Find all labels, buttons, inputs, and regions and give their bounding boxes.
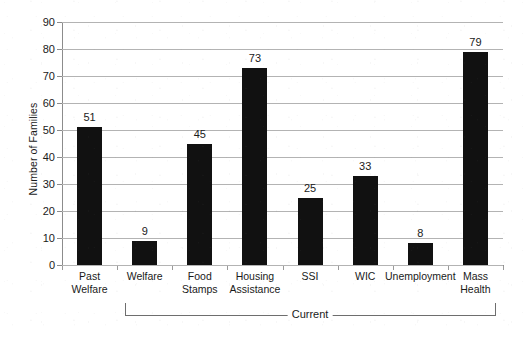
- gridline: [62, 103, 503, 104]
- x-axis-category-label: HousingAssistance: [230, 270, 281, 296]
- gridline: [62, 157, 503, 158]
- y-axis-tick-mark: [57, 76, 62, 77]
- y-axis-tick-label: 10: [43, 232, 55, 244]
- y-axis-tick-label: 0: [49, 259, 55, 271]
- bar: [187, 144, 212, 266]
- bar: [77, 127, 102, 265]
- x-axis-category-line: SSI: [302, 270, 319, 282]
- y-axis-tick-label: 20: [43, 205, 55, 217]
- x-axis-category-label: Welfare: [127, 270, 163, 283]
- gridline: [62, 184, 503, 185]
- x-axis-tick-mark: [338, 266, 339, 270]
- x-axis-category-label: SSI: [302, 270, 319, 283]
- bar: [463, 52, 488, 265]
- x-axis-category-label: WIC: [355, 270, 375, 283]
- x-axis-category-line: Food: [188, 270, 212, 282]
- x-axis-category-line: Welfare: [127, 270, 163, 282]
- y-axis-title: Number of Families: [27, 54, 39, 244]
- x-axis-category-line: Housing: [236, 270, 275, 282]
- y-axis-tick-label: 30: [43, 178, 55, 190]
- x-axis-tick-mark: [172, 266, 173, 270]
- bar: [132, 241, 157, 265]
- bar: [353, 176, 378, 265]
- gridline: [62, 49, 503, 50]
- y-axis-tick-mark: [57, 22, 62, 23]
- y-axis-tick-mark: [57, 49, 62, 50]
- bar-value-label: 73: [249, 52, 261, 64]
- bracket-left-tick: [125, 303, 126, 316]
- bar-value-label: 45: [194, 128, 206, 140]
- bar-value-label: 9: [142, 225, 148, 237]
- gridline: [62, 211, 503, 212]
- x-axis-category-line: Welfare: [72, 283, 108, 295]
- x-axis-category-label: FoodStamps: [182, 270, 218, 296]
- bar-chart: Number of Families 0102030405060708090 5…: [0, 0, 525, 338]
- gridline: [62, 22, 503, 23]
- bar: [242, 68, 267, 265]
- bar-value-label: 8: [417, 227, 423, 239]
- x-axis-tick-mark: [503, 266, 504, 270]
- x-axis-category-line: Assistance: [230, 283, 281, 295]
- y-axis-tick-mark: [57, 211, 62, 212]
- x-axis-tick-mark: [227, 266, 228, 270]
- x-axis-category-line: Stamps: [182, 283, 218, 295]
- x-axis-tick-mark: [283, 266, 284, 270]
- y-axis-tick-mark: [57, 103, 62, 104]
- bar-value-label: 25: [304, 182, 316, 194]
- x-axis-category-label: PastWelfare: [72, 270, 108, 296]
- gridline: [62, 76, 503, 77]
- x-axis-category-label: Unemployment: [385, 270, 456, 283]
- plot-area: 0102030405060708090: [62, 22, 503, 265]
- bracket-right-tick: [495, 303, 496, 316]
- bar: [408, 243, 433, 265]
- x-axis-category-label: MassHealth: [460, 270, 490, 296]
- bar-value-label: 79: [469, 36, 481, 48]
- x-axis-tick-mark: [117, 266, 118, 270]
- bar-value-label: 51: [83, 111, 95, 123]
- x-axis-category-line: Unemployment: [385, 270, 456, 282]
- y-axis-tick-mark: [57, 130, 62, 131]
- x-axis-category-line: Past: [79, 270, 100, 282]
- y-axis-tick-label: 60: [43, 97, 55, 109]
- y-axis-tick-label: 40: [43, 151, 55, 163]
- x-axis-category-line: WIC: [355, 270, 375, 282]
- gridline: [62, 130, 503, 131]
- y-axis-tick-mark: [57, 157, 62, 158]
- x-axis-tick-mark: [62, 266, 63, 270]
- y-axis-tick-label: 80: [43, 43, 55, 55]
- y-axis-tick-mark: [57, 238, 62, 239]
- y-axis-tick-label: 50: [43, 124, 55, 136]
- x-axis-category-line: Mass: [463, 270, 488, 282]
- gridline: [62, 238, 503, 239]
- x-axis-category-line: Health: [460, 283, 490, 295]
- y-axis-tick-label: 70: [43, 70, 55, 82]
- bracket-label: Current: [288, 308, 333, 320]
- bar: [298, 198, 323, 266]
- y-axis-tick-label: 90: [43, 16, 55, 28]
- y-axis-tick-mark: [57, 184, 62, 185]
- bar-value-label: 33: [359, 160, 371, 172]
